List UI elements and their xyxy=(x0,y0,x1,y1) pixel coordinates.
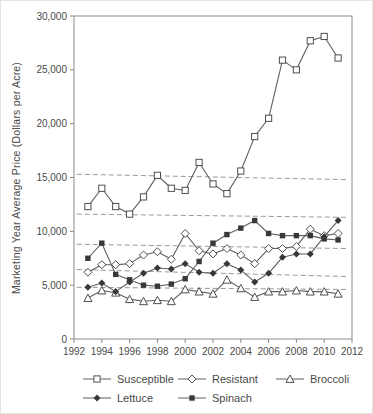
data-point-marker xyxy=(189,395,194,400)
data-point-marker xyxy=(266,231,271,236)
data-point-marker xyxy=(335,237,340,242)
legend-item-broccoli: Broccoli xyxy=(275,373,370,385)
data-point-marker xyxy=(196,259,201,264)
data-point-marker xyxy=(113,272,118,277)
y-tick-label: 20,000 xyxy=(36,118,67,129)
data-point-marker xyxy=(335,55,341,61)
y-tick-label: 10,000 xyxy=(36,226,67,237)
x-tick-label: 1998 xyxy=(146,346,169,357)
y-tick-label: 30,000 xyxy=(36,11,67,22)
data-point-marker xyxy=(209,250,217,258)
data-point-marker xyxy=(85,256,90,261)
data-point-marker xyxy=(238,168,244,174)
data-point-marker xyxy=(188,375,196,383)
data-point-marker xyxy=(94,376,100,382)
filled-diamond-marker-icon xyxy=(82,393,112,403)
data-point-marker xyxy=(224,232,229,237)
data-point-marker xyxy=(223,260,230,267)
series-broccoli xyxy=(84,276,342,305)
series-resistant xyxy=(84,225,342,276)
legend-label: Lettuce xyxy=(117,392,153,404)
data-point-marker xyxy=(182,187,188,193)
data-point-marker xyxy=(181,285,189,292)
data-point-marker xyxy=(98,280,105,287)
y-tick-label: 5,000 xyxy=(42,280,67,291)
data-point-marker xyxy=(293,67,299,73)
data-point-marker xyxy=(98,261,106,269)
legend-label: Resistant xyxy=(212,373,258,385)
y-tick-label: 25,000 xyxy=(36,64,67,75)
legend-item-susceptible: Susceptible xyxy=(82,373,177,385)
chart-legend: SusceptibleResistantBroccoliLettuceSpina… xyxy=(82,373,370,404)
open-diamond-marker-icon xyxy=(177,374,207,384)
data-point-marker xyxy=(155,284,160,289)
data-point-marker xyxy=(154,264,161,271)
data-point-marker xyxy=(251,293,259,300)
data-point-marker xyxy=(237,284,245,291)
data-point-marker xyxy=(308,233,313,238)
x-tick-label: 2012 xyxy=(341,346,364,357)
data-point-marker xyxy=(85,203,91,209)
data-point-marker xyxy=(140,194,146,200)
data-point-marker xyxy=(153,248,161,256)
data-point-marker xyxy=(237,251,245,259)
data-point-marker xyxy=(84,294,92,301)
data-point-marker xyxy=(210,240,215,245)
data-point-marker xyxy=(252,133,258,139)
data-point-marker xyxy=(322,236,327,241)
data-point-marker xyxy=(210,270,217,277)
data-point-marker xyxy=(196,269,203,276)
legend-item-resistant: Resistant xyxy=(177,373,275,385)
data-point-marker xyxy=(321,33,327,39)
y-tick-label: 15,000 xyxy=(36,172,67,183)
legend-label: Susceptible xyxy=(117,373,174,385)
filled-square-marker-icon xyxy=(177,393,207,403)
data-point-marker xyxy=(154,172,160,178)
data-point-marker xyxy=(126,260,134,268)
trend-line xyxy=(77,287,348,289)
data-point-marker xyxy=(99,185,105,191)
x-tick-label: 1992 xyxy=(63,346,86,357)
data-point-marker xyxy=(140,251,148,259)
x-tick-label: 2006 xyxy=(257,346,280,357)
data-point-marker xyxy=(280,233,285,238)
legend-label: Spinach xyxy=(212,392,252,404)
trend-line xyxy=(77,214,348,217)
data-point-marker xyxy=(99,240,104,245)
y-tick-label: 0 xyxy=(61,334,67,345)
data-point-marker xyxy=(224,191,230,197)
x-tick-label: 2002 xyxy=(202,346,225,357)
series-susceptible xyxy=(85,33,341,217)
x-tick-label: 2000 xyxy=(174,346,197,357)
data-point-marker xyxy=(196,159,202,165)
data-point-marker xyxy=(182,260,189,267)
x-tick-label: 2010 xyxy=(313,346,336,357)
data-point-marker xyxy=(334,229,342,237)
data-point-marker xyxy=(168,185,174,191)
data-point-marker xyxy=(223,276,231,283)
x-tick-label: 1994 xyxy=(91,346,114,357)
data-point-marker xyxy=(307,38,313,44)
chart-figure: Marketing Year Average Price (Dollars pe… xyxy=(0,0,373,414)
data-point-marker xyxy=(266,115,272,121)
legend-item-lettuce: Lettuce xyxy=(82,392,177,404)
legend-label: Broccoli xyxy=(310,373,349,385)
open-triangle-marker-icon xyxy=(275,374,305,384)
open-square-marker-icon xyxy=(82,374,112,384)
data-point-marker xyxy=(210,181,216,187)
data-point-marker xyxy=(238,225,243,230)
x-tick-label: 1996 xyxy=(118,346,141,357)
data-point-marker xyxy=(223,245,231,253)
data-point-marker xyxy=(169,281,174,286)
x-tick-label: 2004 xyxy=(230,346,253,357)
data-point-marker xyxy=(279,245,287,253)
data-point-marker xyxy=(293,250,300,257)
trend-line xyxy=(77,174,348,179)
price-line-chart: 05,00010,00015,00020,00025,00030,0001992… xyxy=(1,1,373,363)
data-point-marker xyxy=(167,255,175,263)
x-tick-label: 2008 xyxy=(285,346,308,357)
legend-item-spinach: Spinach xyxy=(177,392,275,404)
data-point-marker xyxy=(127,211,133,217)
data-point-marker xyxy=(94,395,101,402)
data-point-marker xyxy=(113,203,119,209)
